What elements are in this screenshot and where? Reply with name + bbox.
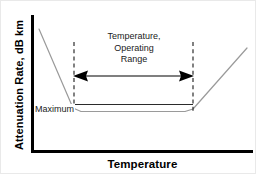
operating-range-arrow-head-left xyxy=(73,71,88,82)
operating-range-annotation-line-2: Operating xyxy=(87,43,181,55)
x-axis-title: Temperature xyxy=(32,158,253,170)
y-axis-title: Attenuation Rate, dB km xyxy=(13,15,25,155)
maximum-threshold-label: Maximum xyxy=(34,104,75,116)
operating-range-annotation: Temperature, Operating Range xyxy=(87,31,181,66)
operating-range-arrow-head-right xyxy=(179,71,194,82)
operating-range-annotation-line-1: Temperature, xyxy=(87,31,181,43)
chart-plot-area xyxy=(1,1,256,174)
attenuation-temperature-chart: Attenuation Rate, dB km Temperature Temp… xyxy=(0,0,256,174)
operating-range-annotation-line-3: Range xyxy=(87,54,181,66)
operating-range-arrow xyxy=(73,71,194,82)
